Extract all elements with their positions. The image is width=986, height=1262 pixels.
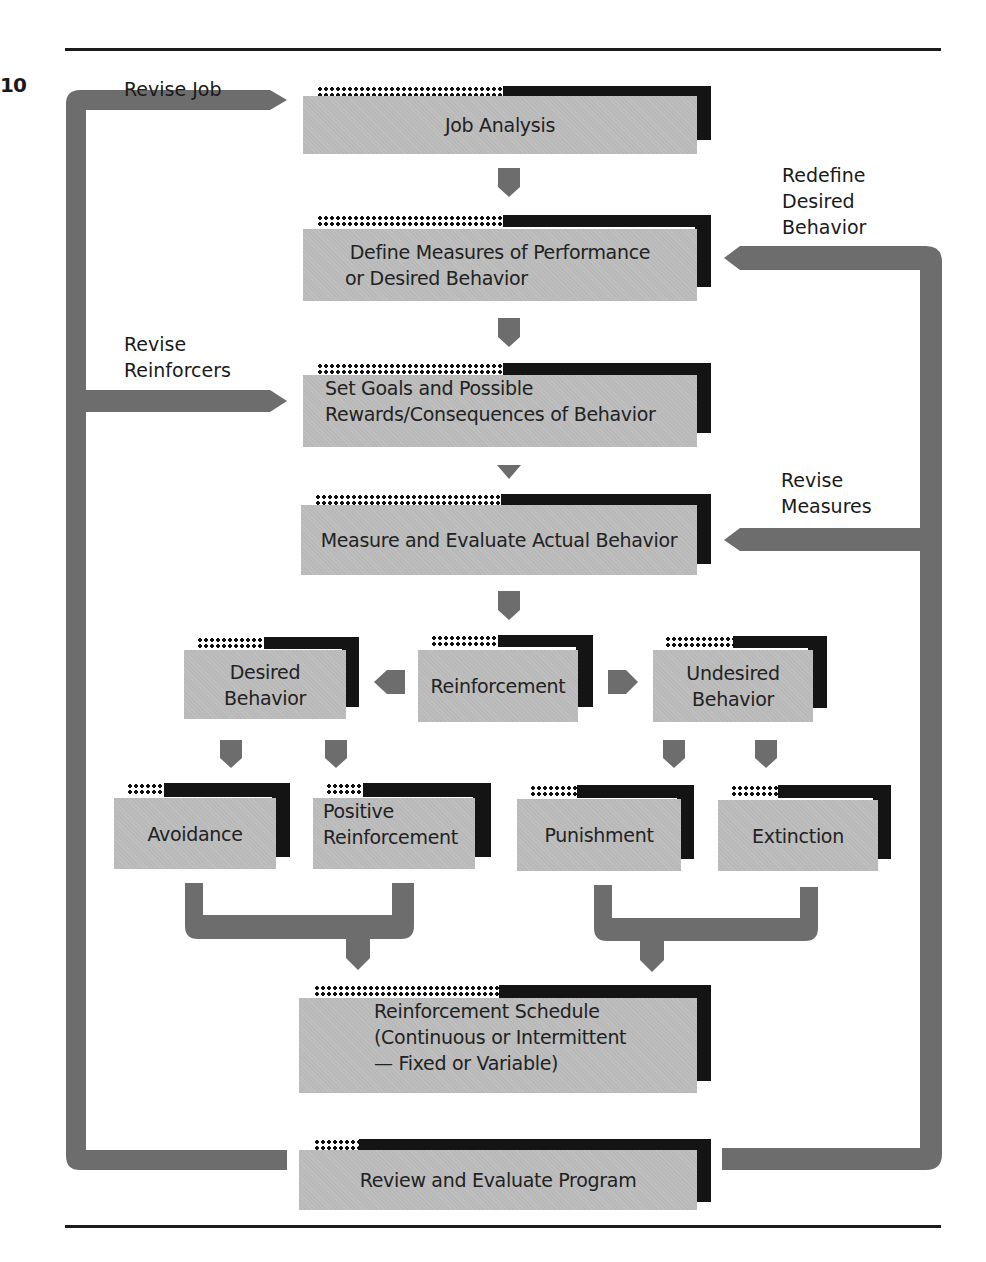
extinction-box: Extinction — [718, 785, 891, 871]
box-text: Rewards/Consequences of Behavior — [325, 401, 656, 427]
box-text: Punishment — [544, 822, 653, 848]
define-measures-box: Define Measures of Performance or Desire… — [303, 215, 711, 300]
box-text: Behavior — [224, 685, 306, 711]
reinforcement-box: Reinforcement — [418, 635, 593, 722]
undesired-behavior-box: Undesired Behavior — [653, 636, 827, 722]
revise-job-text: Revise Job — [124, 78, 221, 100]
box-text: — Fixed or Variable) — [374, 1050, 558, 1076]
punishment-box: Punishment — [517, 785, 694, 871]
label-line: Redefine — [782, 162, 866, 188]
set-goals-box: Set Goals and Possible Rewards/Consequen… — [303, 363, 711, 447]
label-line: Revise — [781, 467, 872, 493]
box-text: Job Analysis — [445, 112, 555, 138]
box-text: (Continuous or Intermittent — [374, 1024, 626, 1050]
box-text: Reinforcement — [323, 824, 458, 850]
review-evaluate-box: Review and Evaluate Program — [299, 1139, 711, 1211]
reinforcement-schedule-box: Reinforcement Schedule (Continuous or In… — [299, 985, 711, 1094]
box-text: Extinction — [752, 823, 844, 849]
box-text: Reinforcement Schedule — [374, 998, 600, 1024]
box-text: Review and Evaluate Program — [360, 1167, 637, 1193]
box-text: Positive — [323, 798, 394, 824]
label-line: Behavior — [782, 214, 866, 240]
label-line: Reinforcers — [124, 357, 231, 383]
box-text: Reinforcement — [431, 673, 566, 699]
redefine-desired-behavior-label: Redefine Desired Behavior — [782, 162, 866, 240]
desired-behavior-box: Desired Behavior — [184, 637, 359, 719]
avoidance-box: Avoidance — [114, 783, 290, 869]
job-analysis-box: Job Analysis — [303, 86, 711, 154]
box-text: Measure and Evaluate Actual Behavior — [321, 527, 678, 553]
label-line: Revise — [124, 331, 231, 357]
box-text: Desired — [230, 659, 301, 685]
box-text: Avoidance — [147, 821, 242, 847]
measure-evaluate-box: Measure and Evaluate Actual Behavior — [301, 494, 711, 576]
label-line: Desired — [782, 188, 866, 214]
revise-job-label: Revise Job — [124, 76, 221, 102]
label-line: Measures — [781, 493, 872, 519]
box-text: Undesired — [686, 660, 779, 686]
box-text: or Desired Behavior — [303, 265, 528, 291]
positive-reinforcement-box: Positive Reinforcement — [313, 783, 491, 869]
revise-measures-label: Revise Measures — [781, 467, 872, 519]
revise-reinforcers-label: Revise Reinforcers — [124, 331, 231, 383]
box-text: Define Measures of Performance — [350, 239, 651, 265]
box-text: Behavior — [692, 686, 774, 712]
box-text: Set Goals and Possible — [325, 375, 533, 401]
